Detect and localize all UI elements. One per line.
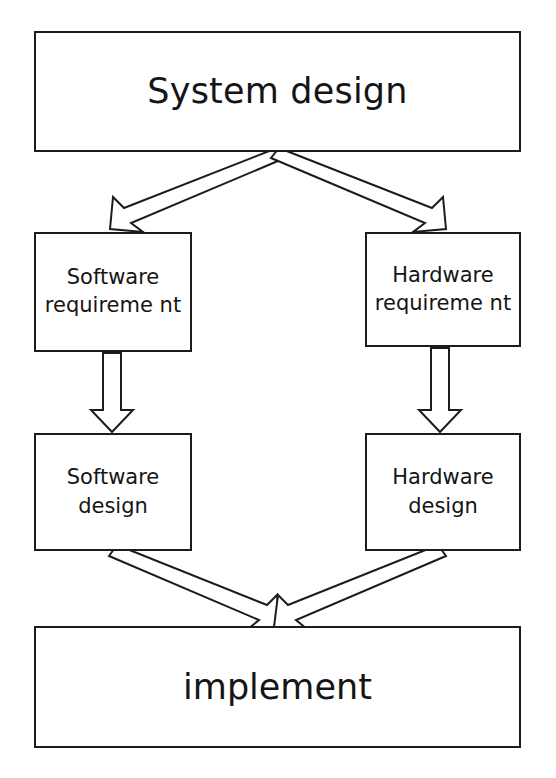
node-system-design-label: System design <box>141 70 413 113</box>
connector-hardware-requirement-to-hardware-design <box>419 348 461 432</box>
node-implement-label: implement <box>177 666 378 709</box>
node-system-design[interactable]: System design <box>34 31 521 152</box>
connector-software-design-to-implement <box>109 545 281 629</box>
node-hardware-requirement[interactable]: Hardware requireme nt <box>365 232 521 347</box>
connector-system-to-software-requirement <box>110 148 285 232</box>
node-software-design-label: Software design <box>36 463 190 521</box>
node-hardware-design-label: Hardware design <box>367 463 519 521</box>
node-software-requirement-label: Software requireme nt <box>36 264 190 319</box>
connector-system-to-hardware-requirement <box>271 148 446 232</box>
node-software-requirement[interactable]: Software requireme nt <box>34 232 192 352</box>
connector-hardware-design-to-implement <box>274 545 446 629</box>
connector-software-requirement-to-software-design <box>91 353 133 432</box>
node-implement[interactable]: implement <box>34 626 521 748</box>
node-hardware-design[interactable]: Hardware design <box>365 433 521 551</box>
node-software-design[interactable]: Software design <box>34 433 192 551</box>
diagram-canvas: System design Software requireme nt Hard… <box>0 0 556 778</box>
node-hardware-requirement-label: Hardware requireme nt <box>367 262 519 317</box>
